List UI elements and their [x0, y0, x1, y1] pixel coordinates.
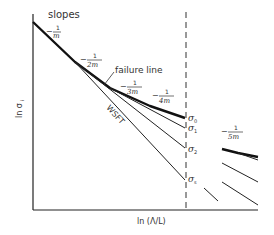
slope-label-4m: − 1 4m — [152, 88, 174, 105]
svg-text:1: 1 — [93, 52, 97, 59]
failure-slope-diagram: slopes − 1 m − 1 2m failure line − 1 3m … — [0, 0, 274, 235]
svg-text:1: 1 — [165, 88, 169, 95]
svg-text:1: 1 — [133, 79, 137, 86]
x-axis-label: ln (Λ/L) — [137, 217, 166, 226]
svg-text:m: m — [53, 32, 60, 40]
failure-line-leader — [104, 72, 114, 85]
failure-line-right — [222, 149, 258, 157]
stress-label-sigmas: σ s — [188, 174, 197, 185]
svg-text:2: 2 — [194, 149, 197, 155]
svg-text:0: 0 — [194, 118, 197, 124]
svg-text:−: − — [80, 55, 87, 64]
slope-label-5m: − 1 5m — [221, 124, 243, 141]
stress-label-sigma2: σ 2 — [188, 144, 197, 155]
failure-line-label: failure line — [115, 65, 163, 75]
right-line-3 — [222, 182, 258, 205]
svg-text:1: 1 — [194, 128, 197, 134]
svg-text:4m: 4m — [158, 97, 170, 105]
slopes-label: slopes — [48, 9, 80, 20]
y-axis-label: ln σ i — [15, 100, 25, 118]
svg-text:ln σ: ln σ — [15, 103, 24, 118]
right-line-4 — [204, 188, 218, 201]
svg-text:5m: 5m — [228, 133, 239, 141]
svg-text:2m: 2m — [86, 61, 98, 69]
svg-text:1: 1 — [56, 24, 60, 31]
svg-text:s: s — [194, 179, 197, 185]
stress-label-sigma1: σ 1 — [188, 123, 197, 134]
svg-text:3m: 3m — [127, 88, 138, 96]
svg-text:−: − — [120, 82, 127, 91]
svg-text:−: − — [46, 27, 53, 36]
svg-text:−: − — [221, 127, 228, 136]
slope-label-2m: − 1 2m — [80, 52, 102, 69]
svg-text:i: i — [19, 100, 25, 101]
svg-text:−: − — [152, 91, 159, 100]
wsft-label: WSFT — [105, 103, 127, 126]
wsft-line — [75, 62, 185, 180]
svg-text:1: 1 — [234, 124, 238, 131]
right-line-2 — [222, 163, 258, 182]
